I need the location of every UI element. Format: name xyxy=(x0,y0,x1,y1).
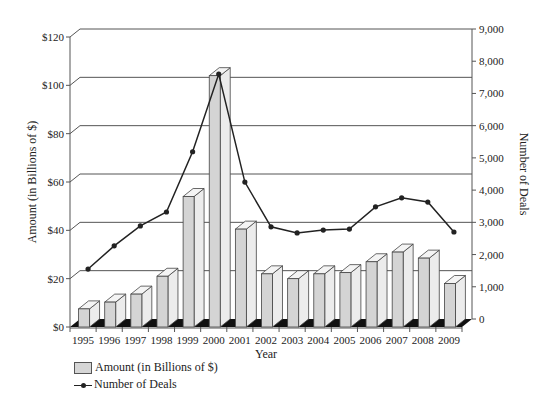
bar-2009 xyxy=(444,276,465,328)
svg-text:2007: 2007 xyxy=(386,334,409,346)
y-axis-title: Amount (in Billions of $) xyxy=(25,121,39,244)
bar-2007 xyxy=(392,244,413,327)
svg-text:4,000: 4,000 xyxy=(479,184,504,196)
svg-text:8,000: 8,000 xyxy=(479,55,504,67)
svg-text:2,000: 2,000 xyxy=(479,249,504,261)
point-2006 xyxy=(373,204,378,209)
point-2007 xyxy=(399,195,404,200)
bar-2006 xyxy=(366,254,387,327)
svg-text:1997: 1997 xyxy=(124,334,147,346)
legend-label-amount: Amount (in Billions of $) xyxy=(95,359,218,376)
line-marker-icon xyxy=(74,380,92,390)
svg-text:$100: $100 xyxy=(42,79,65,91)
legend-item-amount: Amount (in Billions of $) xyxy=(74,359,218,376)
svg-text:$80: $80 xyxy=(48,128,65,140)
point-2000 xyxy=(216,72,221,77)
y2-axis-title: Number of Deals xyxy=(517,133,531,216)
svg-text:1,000: 1,000 xyxy=(479,281,504,293)
svg-text:1999: 1999 xyxy=(177,334,200,346)
legend: Amount (in Billions of $) Number of Deal… xyxy=(74,359,218,393)
svg-text:2004: 2004 xyxy=(307,334,330,346)
svg-text:2009: 2009 xyxy=(438,334,461,346)
svg-text:1995: 1995 xyxy=(72,334,95,346)
bar-2005 xyxy=(340,265,361,327)
bar-1999 xyxy=(183,189,204,328)
legend-label-deals: Number of Deals xyxy=(94,376,177,393)
point-2005 xyxy=(347,227,352,232)
bar-2002 xyxy=(262,266,283,327)
bar-swatch-icon xyxy=(74,362,92,374)
svg-text:2006: 2006 xyxy=(360,334,383,346)
svg-text:3,000: 3,000 xyxy=(479,216,504,228)
svg-text:2003: 2003 xyxy=(281,334,304,346)
point-2004 xyxy=(321,227,326,232)
svg-text:1998: 1998 xyxy=(150,334,173,346)
bar-series xyxy=(79,68,466,327)
svg-text:$20: $20 xyxy=(48,273,65,285)
point-1999 xyxy=(190,149,195,154)
bar-1997 xyxy=(131,286,152,327)
svg-text:$40: $40 xyxy=(48,224,65,236)
svg-text:2001: 2001 xyxy=(229,334,251,346)
svg-text:7,000: 7,000 xyxy=(479,87,504,99)
svg-text:6,000: 6,000 xyxy=(479,120,504,132)
svg-text:9,000: 9,000 xyxy=(479,23,504,35)
point-2002 xyxy=(268,224,273,229)
svg-text:2005: 2005 xyxy=(333,334,356,346)
legend-item-deals: Number of Deals xyxy=(74,376,218,393)
bar-2001 xyxy=(235,221,256,327)
x-axis-title: Year xyxy=(255,347,277,361)
bar-1998 xyxy=(157,268,178,327)
bar-2008 xyxy=(418,250,439,327)
svg-text:$120: $120 xyxy=(42,31,65,43)
svg-text:0: 0 xyxy=(479,313,485,325)
svg-text:1996: 1996 xyxy=(98,334,121,346)
point-1996 xyxy=(112,243,117,248)
point-2008 xyxy=(425,199,430,204)
point-2003 xyxy=(295,230,300,235)
svg-text:2000: 2000 xyxy=(203,334,226,346)
point-1995 xyxy=(85,266,90,271)
chart: $0$20$40$60$80$100$12001,0002,0003,0004,… xyxy=(0,0,538,400)
svg-text:$60: $60 xyxy=(48,176,65,188)
point-2001 xyxy=(242,179,247,184)
svg-text:2008: 2008 xyxy=(412,334,435,346)
bar-2004 xyxy=(314,266,335,327)
point-1997 xyxy=(138,223,143,228)
point-2009 xyxy=(451,229,456,234)
bar-2003 xyxy=(288,271,309,327)
svg-text:$0: $0 xyxy=(53,321,65,333)
svg-text:2002: 2002 xyxy=(255,334,277,346)
svg-text:5,000: 5,000 xyxy=(479,152,504,164)
point-1998 xyxy=(164,209,169,214)
line-series xyxy=(85,72,456,272)
